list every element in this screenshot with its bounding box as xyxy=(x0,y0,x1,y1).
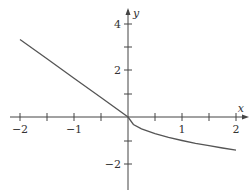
x-tick-label: −1 xyxy=(66,123,82,136)
x-tick-label: −2 xyxy=(12,123,28,136)
y-tick-label: −2 xyxy=(105,158,121,171)
x-tick-label: 1 xyxy=(179,123,186,136)
x-tick-label: 2 xyxy=(233,123,240,136)
y-tick-label: 2 xyxy=(114,64,121,77)
y-axis-label: y xyxy=(132,7,140,20)
y-axis-arrow-icon xyxy=(126,8,131,15)
chart: −2 −1 1 2 4 2 −2 x y xyxy=(0,0,250,193)
x-axis-arrow-icon xyxy=(242,115,249,120)
y-tick-label: 4 xyxy=(114,18,121,31)
x-axis-label: x xyxy=(238,102,245,115)
